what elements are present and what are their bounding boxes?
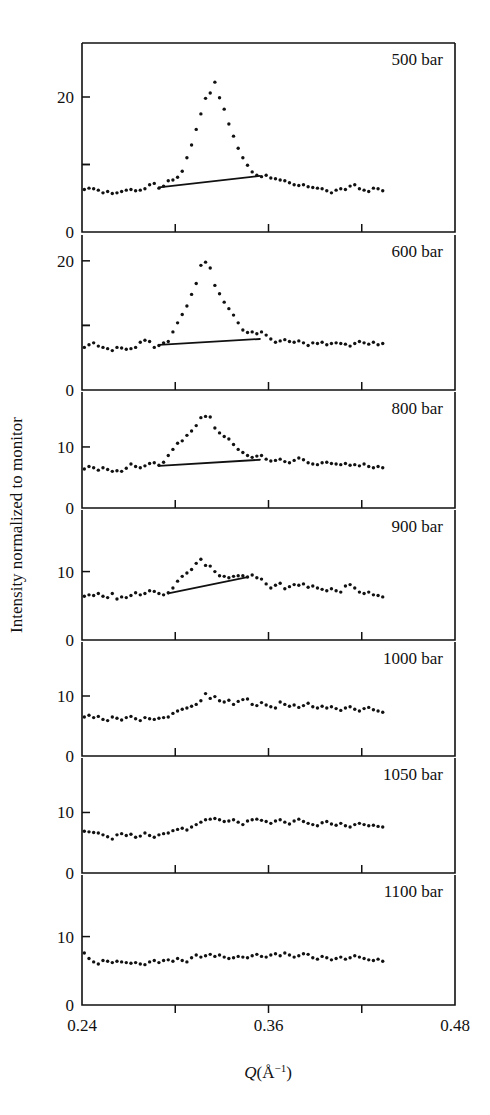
data-point [232, 134, 235, 137]
data-point [167, 340, 170, 343]
data-point [213, 955, 216, 958]
data-point [171, 448, 174, 451]
data-point [283, 703, 286, 706]
data-point [264, 820, 267, 823]
data-point [344, 824, 347, 827]
data-point [83, 346, 86, 349]
data-point [348, 705, 351, 708]
data-point [302, 952, 305, 955]
data-point [288, 340, 291, 343]
data-point [199, 112, 202, 115]
data-point [339, 590, 342, 593]
data-point [246, 163, 249, 166]
data-point [199, 955, 202, 958]
data-point [288, 585, 291, 588]
data-point [236, 448, 239, 451]
data-point [125, 596, 128, 599]
data-point [190, 143, 193, 146]
data-point [376, 825, 379, 828]
data-point [344, 342, 347, 345]
data-point [316, 186, 319, 189]
data-point [162, 832, 165, 835]
data-point [246, 697, 249, 700]
data-point [171, 178, 174, 181]
data-point [325, 189, 328, 192]
data-point [376, 709, 379, 712]
data-point [255, 817, 258, 820]
x-tick-label: 0.48 [440, 1016, 470, 1035]
data-point [223, 435, 226, 438]
data-point [106, 596, 109, 599]
data-point [162, 716, 165, 719]
data-point [162, 461, 165, 464]
data-point [264, 333, 267, 336]
data-point [143, 464, 146, 467]
data-point [176, 957, 179, 960]
data-point [344, 188, 347, 191]
data-point [129, 962, 132, 965]
fitted-baseline-line [168, 577, 247, 593]
data-point [232, 818, 235, 821]
data-point [171, 586, 174, 589]
data-points [83, 80, 385, 195]
data-point [92, 341, 95, 344]
panel-1100-bar: 0101100 bar [57, 875, 455, 1015]
panel-label: 900 bar [392, 517, 444, 536]
data-point [330, 342, 333, 345]
data-point [372, 708, 375, 711]
data-point [92, 960, 95, 963]
data-point [316, 957, 319, 960]
data-point [358, 822, 361, 825]
data-point [190, 705, 193, 708]
data-point [302, 582, 305, 585]
data-point [204, 415, 207, 418]
data-point [367, 590, 370, 593]
data-point [157, 186, 160, 189]
panel-label: 1050 bar [383, 765, 443, 784]
data-point [167, 715, 170, 718]
data-point [292, 703, 295, 706]
data-point [209, 415, 212, 418]
data-point [339, 187, 342, 190]
panels-group: 020500 bar020600 bar010800 bar010900 bar… [57, 43, 470, 1035]
data-point [330, 822, 333, 825]
panel-label: 600 bar [392, 242, 444, 261]
data-point [260, 454, 263, 457]
data-point [157, 592, 160, 595]
data-point [353, 183, 356, 186]
data-point [227, 437, 230, 440]
data-point [311, 823, 314, 826]
data-point [97, 344, 100, 347]
y-tick-label: 0 [66, 864, 75, 883]
data-point [372, 823, 375, 826]
data-point [153, 461, 156, 464]
data-point [139, 466, 142, 469]
data-point [227, 122, 230, 125]
panel-1050-bar: 0101050 bar [57, 758, 455, 883]
data-point [87, 830, 90, 833]
data-point [376, 957, 379, 960]
data-point [209, 564, 212, 567]
data-point [209, 953, 212, 956]
data-point [250, 330, 253, 333]
data-point [139, 719, 142, 722]
data-point [111, 837, 114, 840]
data-point [255, 454, 258, 457]
data-point [241, 574, 244, 577]
data-point [218, 699, 221, 702]
data-point [348, 344, 351, 347]
data-point [316, 824, 319, 827]
data-point [209, 266, 212, 269]
data-point [92, 187, 95, 190]
panel-600-bar: 020600 bar [57, 235, 455, 400]
data-point [101, 466, 104, 469]
data-point [143, 963, 146, 966]
data-point [269, 705, 272, 708]
data-point [292, 819, 295, 822]
data-point [320, 461, 323, 464]
y-tick-label: 0 [66, 223, 75, 242]
data-point [283, 338, 286, 341]
data-point [362, 592, 365, 595]
data-point [320, 955, 323, 958]
data-point [125, 834, 128, 837]
